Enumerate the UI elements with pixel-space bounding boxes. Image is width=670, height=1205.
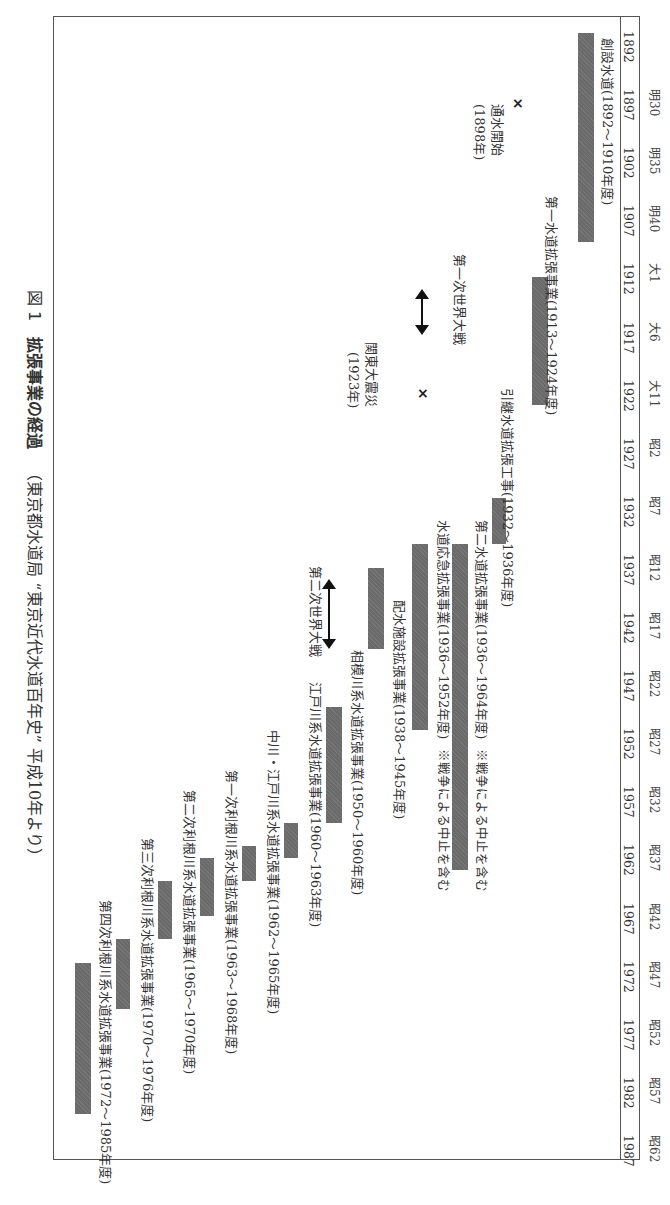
axis-year-label: 1927 (622, 438, 635, 470)
event-x-marker-icon: × (417, 385, 429, 401)
project-label: 第一次利根川系水道拡張事業(1963～1968年度) (225, 770, 238, 1054)
axis-era-label: 昭42 (648, 903, 660, 930)
axis-year-label: 1967 (622, 903, 635, 935)
project-bar (242, 846, 256, 881)
event-label: 第一次世界大戦 (453, 254, 466, 345)
axis-era-label: 大1 (648, 263, 660, 283)
axis-year-label: 1942 (622, 612, 635, 644)
project-label: 引継水道拡張工事(1932～1936年度) (501, 388, 514, 607)
axis-year-label: 1922 (622, 380, 635, 412)
project-note: ※戦争による中止を含む (474, 749, 489, 892)
axis-era-label: 昭17 (648, 612, 660, 639)
project-label: 第四次利根川系水道拡張事業(1972～1985年度) (99, 900, 112, 1184)
axis-year-label: 1962 (622, 844, 635, 876)
axis-year-label: 1952 (622, 728, 635, 760)
project-bar (158, 881, 172, 939)
project-label: 創設水道(1892～1910年度) (601, 38, 614, 205)
axis-year-label: 1917 (622, 322, 635, 354)
project-label: 第二次利根川系水道拡張事業(1965～1970年度) (183, 790, 196, 1074)
axis-year-label: 1982 (622, 1077, 635, 1109)
project-label: 配水施設拡張事業(1938～1945年度) (393, 600, 406, 819)
axis-year-label: 1957 (622, 786, 635, 818)
axis-year-label: 1897 (622, 89, 635, 121)
axis-era-label: 昭22 (648, 670, 660, 697)
axis-era-label: 明30 (648, 89, 660, 116)
project-label: 江戸川系水道拡張事業(1960～1963年度) (309, 682, 322, 927)
axis-era-label: 大6 (648, 322, 660, 342)
project-bar (368, 568, 384, 649)
figure-label: 図 1 (25, 290, 44, 321)
project-bar (284, 823, 298, 858)
figure-title: 拡張事業の経過 (25, 337, 44, 449)
axis-year-label: 1907 (622, 205, 635, 237)
axis-era-label: 昭12 (648, 554, 660, 581)
double-arrow-icon (322, 579, 336, 649)
event-label: 通水開始 (491, 104, 504, 156)
axis-era-label: 昭47 (648, 961, 660, 988)
figure-source: （東京都水道局 “東京近代水道百年史” 平成10年より） (25, 465, 44, 864)
event-date: (1923年) (347, 352, 360, 408)
event-date: (1898年) (473, 104, 486, 160)
figure-caption: 図 1拡張事業の経過（東京都水道局 “東京近代水道百年史” 平成10年より） (26, 290, 42, 864)
project-note: ※戦争による中止を含む (436, 749, 451, 892)
event-x-marker-icon: × (512, 95, 524, 111)
axis-era-label: 昭32 (648, 786, 660, 813)
axis-era-label: 明35 (648, 147, 660, 174)
axis-era-label: 昭7 (648, 496, 660, 516)
project-label: 第一水道拡張事業(1913～1924年度) (545, 196, 558, 415)
axis-era-label: 昭37 (648, 844, 660, 871)
axis-era-label: 昭57 (648, 1077, 660, 1104)
axis-era-label: 昭2 (648, 438, 660, 458)
axis-year-label: 1937 (622, 554, 635, 586)
axis-year-label: 1902 (622, 147, 635, 179)
axis-year-label: 1987 (622, 1135, 635, 1167)
project-bar (326, 707, 342, 823)
project-bar (200, 858, 214, 916)
project-bar (578, 33, 594, 242)
axis-era-label: 明40 (648, 205, 660, 232)
axis-year-label: 1912 (622, 263, 635, 295)
project-bar (116, 939, 130, 1009)
project-label: 第二水道拡張事業(1936～1964年度)※戦争による中止を含む (475, 520, 489, 892)
axis-era-label: 昭27 (648, 728, 660, 755)
project-label: 水道応急拡張事業(1936～1952年度)※戦争による中止を含む (437, 520, 451, 892)
axis-era-label: 大11 (648, 380, 660, 407)
event-label: 第二次世界大戦 (309, 566, 322, 657)
axis-year-label: 1977 (622, 1019, 635, 1051)
project-bar (452, 544, 468, 869)
double-arrow-icon (415, 289, 429, 335)
project-label: 相模川系水道拡張事業(1950～1960年度) (351, 650, 364, 895)
axis-year-label: 1932 (622, 496, 635, 528)
project-label: 中川・江戸川系水道拡張事業(1962～1965年度) (267, 730, 280, 1014)
axis-year-label: 1947 (622, 670, 635, 702)
axis-era-label: 昭62 (648, 1135, 660, 1162)
project-bar (75, 963, 91, 1114)
axis-year-label: 1972 (622, 961, 635, 993)
event-label: 関東大震災 (365, 342, 378, 407)
axis-year-label: 1892 (622, 31, 635, 63)
project-bar (412, 544, 428, 730)
project-label: 第三次利根川系水道拡張事業(1970～1976年度) (141, 838, 154, 1122)
axis-era-label: 昭52 (648, 1019, 660, 1046)
